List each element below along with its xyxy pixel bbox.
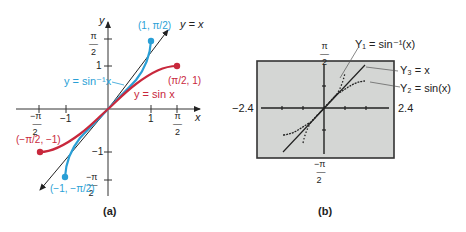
label-arcsin: y = sin⁻¹x: [64, 75, 111, 88]
calculator-screen: [257, 61, 394, 158]
label-pt-sin-top: (π/2, 1): [168, 75, 201, 86]
label-y1: Y₁ = sin⁻¹(x): [355, 38, 415, 51]
sin-endpoint-bottom: [37, 149, 43, 155]
y-tick-pi-half: π—2: [89, 32, 98, 56]
y-min-label: −π — 2: [314, 160, 326, 184]
arcsin-endpoint-bottom: [62, 174, 68, 180]
label-pt-sin-bottom: (−π/2, −1): [16, 134, 61, 145]
label-pt-arcsin-bottom: (−1, −π/2): [50, 183, 95, 194]
label-y2: Y₂ = sin(x): [400, 82, 451, 94]
sin-endpoint-top: [174, 63, 180, 69]
arcsin-endpoint-top: [148, 38, 154, 44]
label-sin: y = sin x: [134, 88, 175, 100]
y-tick-neg1: −1: [92, 146, 103, 157]
y-tick-1: 1: [96, 60, 102, 71]
x-tick-neg-pi-half: −π — 2: [30, 112, 42, 136]
axis-x-label: x: [195, 111, 201, 123]
x-tick-1: 1: [148, 113, 154, 124]
caption-a: (a): [103, 205, 116, 217]
panel-a: [16, 22, 200, 196]
label-identity: y = x: [180, 18, 204, 30]
x-min-label: −2.4: [232, 102, 254, 114]
x-tick-neg1: −1: [60, 113, 71, 124]
label-y3: Y₃ = x: [400, 64, 430, 76]
axis-y-label: y: [99, 14, 105, 26]
y-max-label: π—2: [320, 42, 329, 66]
x-tick-pi-half: π—2: [173, 112, 182, 136]
label-pt-arcsin-top: (1, π/2): [138, 20, 171, 31]
caption-b: (b): [318, 205, 332, 217]
x-max-label: 2.4: [398, 102, 413, 114]
